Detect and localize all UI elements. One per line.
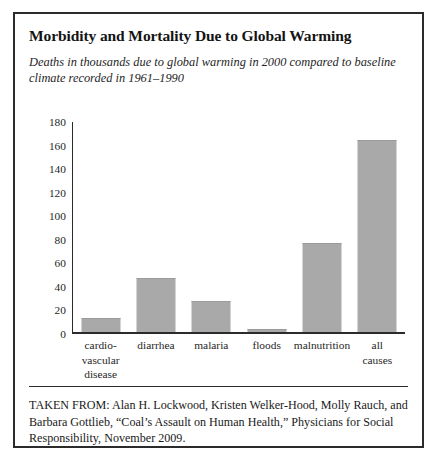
chart-title: Morbidity and Mortality Due to Global Wa…: [29, 14, 408, 45]
bar[interactable]: [302, 243, 341, 333]
y-axis-tick-80: 80: [55, 234, 66, 246]
y-axis-tick-60: 60: [55, 257, 66, 269]
bar-group[interactable]: malnutrition: [294, 122, 349, 332]
bar[interactable]: [192, 301, 231, 333]
bar-group[interactable]: cardio-vasculardisease: [73, 122, 128, 332]
bar[interactable]: [81, 318, 120, 332]
bar-group[interactable]: diarrhea: [128, 122, 183, 332]
y-axis-tick-100: 100: [49, 210, 66, 222]
x-axis-category-label: allcauses: [339, 338, 415, 367]
bar[interactable]: [136, 278, 175, 333]
y-axis-tick-20: 20: [55, 304, 66, 316]
bar-series: cardio-vasculardiseasediarrheamalariaflo…: [73, 122, 405, 332]
chart-subtitle: Deaths in thousands due to global warmin…: [29, 45, 404, 87]
y-axis-tick-140: 140: [49, 163, 66, 175]
chart-plot-region: 020406080100120140160180 cardio-vascular…: [29, 112, 412, 374]
figure-container: Morbidity and Mortality Due to Global Wa…: [13, 12, 424, 448]
bar[interactable]: [358, 140, 397, 333]
y-axis-tick-160: 160: [49, 140, 66, 152]
y-axis-tick-180: 180: [49, 116, 66, 128]
chart-plot-area: 020406080100120140160180 cardio-vascular…: [72, 122, 405, 334]
bar-group[interactable]: allcauses: [350, 122, 405, 332]
bar-group[interactable]: floods: [239, 122, 294, 332]
y-axis-tick-120: 120: [49, 187, 66, 199]
source-note-divider: [29, 386, 408, 387]
y-axis-tick-40: 40: [55, 281, 66, 293]
bar[interactable]: [247, 329, 286, 333]
x-axis-line: [72, 332, 405, 334]
source-note: TAKEN FROM: Alan H. Lockwood, Kristen We…: [29, 397, 409, 447]
bar-group[interactable]: malaria: [184, 122, 239, 332]
